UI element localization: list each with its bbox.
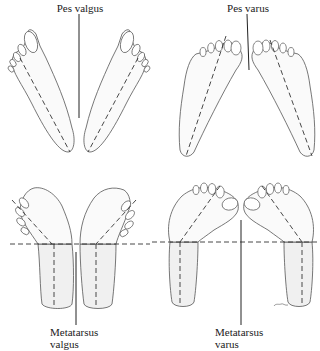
label-metatarsus-valgus-line2: valgus: [50, 338, 110, 350]
pes-valgus-diagram: [7, 14, 151, 152]
label-metatarsus-valgus-line1: Metatarsus: [50, 326, 110, 338]
metatarsus-valgus-diagram: [10, 188, 150, 325]
label-metatarsus-varus: Metatarsus varus: [215, 326, 275, 350]
artist-signature: [274, 304, 288, 306]
label-pes-valgus: Pes valgus: [52, 2, 108, 14]
label-metatarsus-valgus: Metatarsus valgus: [50, 326, 110, 350]
label-metatarsus-varus-line1: Metatarsus: [215, 326, 275, 338]
pes-varus-diagram: [179, 14, 315, 156]
metatarsus-varus-diagram: [152, 183, 320, 325]
label-metatarsus-varus-line2: varus: [215, 338, 275, 350]
label-pes-varus: Pes varus: [220, 2, 276, 14]
foot-deformity-illustration: [0, 0, 320, 351]
